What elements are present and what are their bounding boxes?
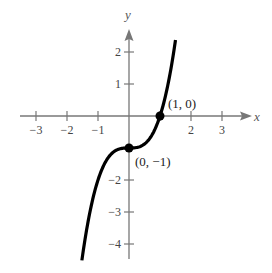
point-label: (0, −1)	[135, 154, 171, 169]
x-tick-label: −1	[92, 123, 105, 137]
point-marker	[156, 112, 165, 121]
point-label: (1, 0)	[168, 96, 196, 111]
y-tick-label: −3	[108, 205, 121, 219]
function-graph: x y −3−2−12321−2−3−4 (0, −1)(1, 0)	[0, 0, 272, 273]
point-marker	[125, 144, 134, 153]
y-tick-label: −4	[108, 237, 121, 251]
y-tick-label: 1	[115, 77, 121, 91]
points: (0, −1)(1, 0)	[125, 96, 197, 169]
x-tick-label: −2	[61, 123, 74, 137]
x-axis-label: x	[253, 109, 260, 124]
y-tick-label: 2	[115, 45, 121, 59]
x-tick-label: 3	[219, 123, 225, 137]
x-tick-label: −3	[30, 123, 43, 137]
y-axis-label: y	[123, 7, 131, 22]
y-tick-label: −2	[108, 173, 121, 187]
x-tick-label: 2	[188, 123, 194, 137]
